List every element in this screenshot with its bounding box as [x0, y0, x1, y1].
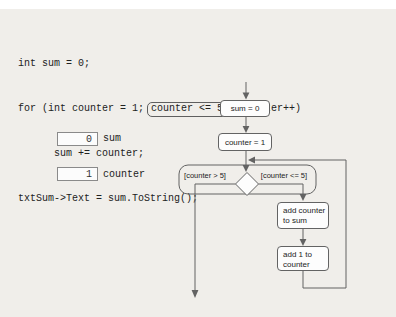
decision-diamond: [236, 173, 259, 196]
flow-arrow-start-to-init: [243, 117, 250, 133]
add-counter-line1: add counter: [283, 206, 328, 216]
flow-node-increment-counter: add 1 to counter: [277, 246, 329, 271]
increment-line1: add 1 to: [283, 250, 328, 260]
flow-start-arrow: [243, 82, 250, 100]
add-counter-line2: to sum: [283, 216, 328, 226]
exit-guard-label: [counter > 5]: [181, 171, 229, 180]
flow-true-branch: [259, 184, 307, 201]
loop-guard-label: [counter <= 5]: [258, 171, 310, 180]
flow-exit-path: [192, 184, 236, 298]
flow-arrow-init-to-decision: [243, 151, 250, 172]
figure-loop-flowchart: int sum = 0; for (int counter = 1;counte…: [0, 0, 396, 317]
flow-node-sum-init: sum = 0: [220, 100, 270, 117]
flowchart-lines: [0, 0, 396, 317]
flow-node-add-counter-to-sum: add counter to sum: [277, 202, 329, 229]
flow-arrow-body1-to-body2: [300, 229, 307, 246]
increment-line2: counter: [283, 260, 328, 270]
flow-node-counter-init: counter = 1: [218, 133, 272, 151]
